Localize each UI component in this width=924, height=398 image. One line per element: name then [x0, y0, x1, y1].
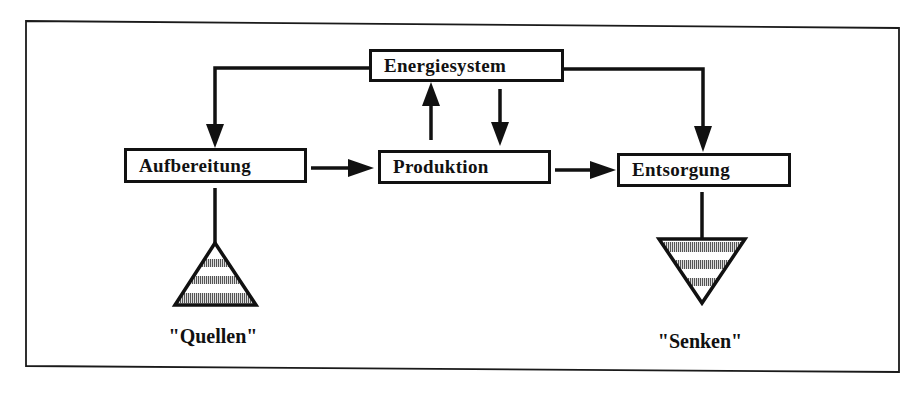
node-energiesystem-label: Energiesystem: [384, 55, 506, 77]
edge-produktion-entsorgung: [555, 161, 616, 179]
node-entsorgung-label: Entsorgung: [632, 159, 730, 181]
senken-triangle-icon: [655, 239, 750, 303]
edge-produktion-energiesystem: [422, 82, 440, 140]
senken-label: "Senken": [658, 330, 742, 353]
node-aufbereitung-label: Aufbereitung: [139, 155, 251, 177]
quellen-label: "Quellen": [169, 325, 258, 348]
edge-energiesystem-produktion: [491, 89, 509, 146]
edge-energiesystem-entsorgung: [563, 69, 712, 152]
node-energiesystem: Energiesystem: [369, 49, 564, 82]
node-produktion-label: Produktion: [393, 156, 489, 178]
node-produktion: Produktion: [378, 150, 551, 184]
node-entsorgung: Entsorgung: [617, 153, 791, 187]
node-aufbereitung: Aufbereitung: [124, 148, 307, 183]
edge-aufbereitung-produktion: [311, 159, 374, 177]
edge-energiesystem-aufbereitung: [206, 68, 369, 148]
quellen-triangle-icon: [170, 243, 260, 305]
